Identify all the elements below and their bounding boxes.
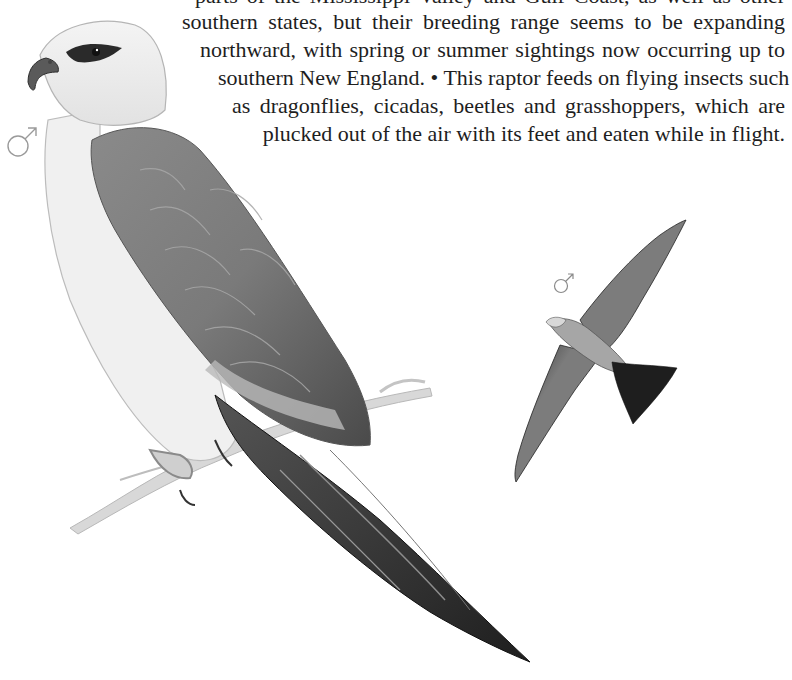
description-line: plucked out of the air with its feet and… [242, 120, 785, 148]
description-line: southern New England. • This raptor feed… [218, 64, 785, 92]
male-symbol-icon [553, 272, 575, 294]
flying-kite-illustration [515, 220, 686, 482]
description-line: southern states, but their breeding rang… [182, 8, 785, 36]
male-symbol-flying [553, 272, 575, 294]
species-description: parts of the Mississippi Valley and Gulf… [0, 0, 792, 150]
description-line: as dragonflies, cicadas, beetles and gra… [232, 92, 785, 120]
description-line: northward, with spring or summer sightin… [200, 36, 785, 64]
field-guide-page: parts of the Mississippi Valley and Gulf… [0, 0, 792, 680]
